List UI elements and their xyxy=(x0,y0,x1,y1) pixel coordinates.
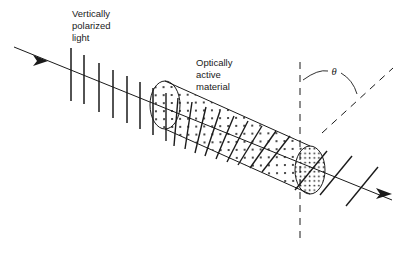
incident-polarization-arrows xyxy=(71,48,153,135)
rotated-plane-dashed-line xyxy=(322,68,393,133)
vertically-polarized-light-line3: light xyxy=(72,32,90,43)
theta-symbol: θ xyxy=(331,66,336,77)
vertically-polarized-light-line1: Vertically xyxy=(72,8,110,19)
theta-arc-right xyxy=(341,73,357,94)
vertically-polarized-light-line2: polarized xyxy=(72,20,111,31)
diagram-canvas: θ xyxy=(0,0,405,254)
exit-polarization-arrows xyxy=(320,156,378,206)
theta-angle-arc xyxy=(303,71,357,94)
optically-active-material-line2: active xyxy=(196,69,221,80)
sample-label-group: Optically active material xyxy=(196,57,233,92)
theta-arc-left xyxy=(303,71,328,80)
optically-active-material-line3: material xyxy=(196,81,230,92)
optically-active-material-line1: Optically xyxy=(196,57,233,68)
optical-rotation-figure: θ xyxy=(0,0,405,254)
beam-exit-arrowhead xyxy=(376,188,392,199)
polarization-arrow xyxy=(346,167,378,206)
beam-entry-arrowhead xyxy=(33,55,48,66)
incident-beam-label-group: Vertically polarized light xyxy=(72,8,111,43)
